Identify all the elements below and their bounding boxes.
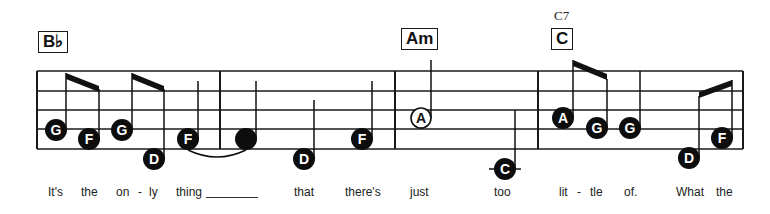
- lyric-extender-line: [206, 197, 258, 198]
- svg-text:G: G: [592, 120, 603, 136]
- svg-text:D: D: [299, 151, 309, 167]
- svg-text:A: A: [558, 110, 568, 126]
- chord-symbol-c: C: [551, 28, 573, 50]
- chord-symbol-a-minor: Am: [401, 28, 438, 50]
- beam: [132, 73, 164, 92]
- svg-text:D: D: [149, 151, 159, 167]
- chord-symbol-b-flat: B♭: [38, 31, 68, 53]
- music-staff: GFGDFDFACAGGDF: [0, 0, 770, 214]
- lyric-syllable: that: [294, 185, 314, 199]
- lyric-syllable: there's: [345, 185, 381, 199]
- svg-text:C: C: [500, 161, 510, 177]
- svg-text:G: G: [117, 122, 128, 138]
- svg-text:G: G: [51, 122, 62, 138]
- svg-text:D: D: [684, 150, 694, 166]
- svg-text:F: F: [184, 131, 193, 147]
- svg-text:G: G: [625, 120, 636, 136]
- lyric-syllable: It's: [48, 185, 63, 199]
- lyric-syllable: of.: [624, 185, 637, 199]
- lyric-syllable: the: [716, 185, 733, 199]
- beam: [66, 73, 99, 92]
- beam: [573, 60, 607, 80]
- svg-text:F: F: [718, 130, 727, 146]
- lyric-syllable: -: [138, 185, 142, 199]
- lyric-syllable: on: [116, 185, 129, 199]
- svg-text:F: F: [358, 131, 367, 147]
- lyric-syllable: too: [494, 185, 511, 199]
- notehead-blank: [235, 128, 257, 150]
- lyric-syllable: tle: [590, 185, 603, 199]
- lyric-syllable: ly: [149, 185, 158, 199]
- lyric-syllable: the: [81, 185, 98, 199]
- lyric-syllable: thing: [176, 185, 202, 199]
- lyric-syllable: -: [577, 185, 581, 199]
- lyric-syllable: lit: [559, 185, 568, 199]
- lyric-syllable: What: [676, 185, 704, 199]
- beam: [699, 80, 732, 98]
- chord-alternate-c7: C7: [554, 8, 569, 24]
- svg-text:F: F: [85, 131, 94, 147]
- svg-text:A: A: [416, 110, 426, 126]
- tie: [188, 150, 246, 157]
- lyric-syllable: just: [410, 185, 429, 199]
